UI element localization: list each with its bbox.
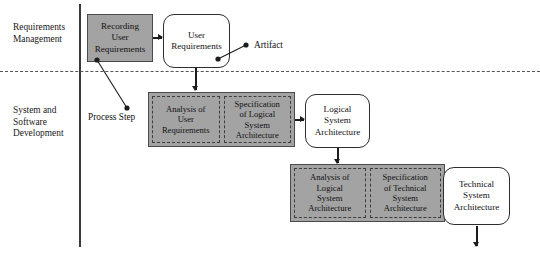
process-diagram: Requirements Management System and Softw… — [0, 0, 540, 254]
artifact-logical-system-architecture[interactable]: Logical System Architecture — [305, 94, 370, 148]
arrow-user-requirements-to-analysis — [195, 68, 197, 90]
arrow-recording-to-user-requirements — [153, 37, 162, 39]
callout-label-process-step: Process Step — [88, 112, 135, 123]
swimlane-axis — [79, 4, 81, 247]
callout-label-artifact: Artifact — [254, 40, 283, 51]
lane-label-requirements-management: Requirements Management — [13, 22, 65, 45]
arrow-logical-architecture-to-analysis — [337, 148, 339, 163]
artifact-technical-system-architecture[interactable]: Technical System Architecture — [443, 167, 510, 225]
arrow-logical-group-to-logical-architecture — [295, 119, 304, 121]
process-step-analysis-of-user-requirements[interactable]: Analysis of User Requirements — [152, 96, 220, 143]
process-step-specification-of-technical-system-architecture[interactable]: Specification of Technical System Archit… — [370, 168, 442, 218]
process-group-logical-architecture: Analysis of User Requirements Specificat… — [148, 92, 295, 147]
swimlane-divider — [0, 71, 540, 72]
process-group-technical-architecture: Analysis of Logical System Architecture … — [290, 164, 445, 222]
process-step-specification-of-logical-system-architecture[interactable]: Specification of Logical System Architec… — [224, 96, 292, 143]
lane-label-system-software-development: System and Software Development — [13, 105, 64, 140]
arrow-technical-architecture-out — [476, 226, 478, 246]
artifact-user-requirements[interactable]: User Requirements — [163, 14, 230, 68]
process-step-analysis-of-logical-system-architecture[interactable]: Analysis of Logical System Architecture — [294, 168, 366, 218]
process-step-recording-user-requirements[interactable]: Recording User Requirements — [87, 14, 153, 62]
